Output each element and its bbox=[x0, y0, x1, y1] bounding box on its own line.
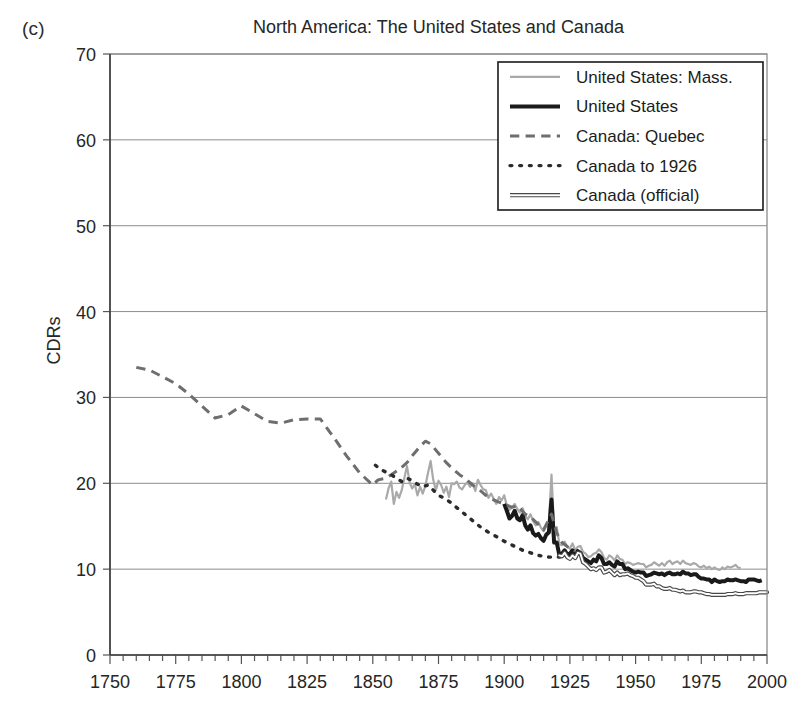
x-tick-label: 1825 bbox=[287, 672, 327, 692]
y-tick-label: 0 bbox=[86, 646, 96, 666]
legend-label-3: Canada to 1926 bbox=[576, 157, 697, 176]
x-ticks-group: 1750177518001825185018751900192519501975… bbox=[90, 655, 787, 692]
y-tick-label: 40 bbox=[76, 303, 96, 323]
chart-plot-area: 010203040506070 175017751800182518501875… bbox=[0, 0, 806, 717]
x-tick-label: 1850 bbox=[353, 672, 393, 692]
y-axis-title: CDRs bbox=[44, 281, 65, 401]
x-tick-label: 1975 bbox=[681, 672, 721, 692]
x-tick-label: 1950 bbox=[616, 672, 656, 692]
legend-label-4: Canada (official) bbox=[576, 186, 699, 205]
chart-legend: United States: Mass.United StatesCanada:… bbox=[498, 62, 763, 210]
series-line-1 bbox=[504, 500, 762, 582]
y-tick-label: 70 bbox=[76, 45, 96, 65]
x-tick-label: 1925 bbox=[550, 672, 590, 692]
chart-figure: (c) North America: The United States and… bbox=[0, 0, 806, 717]
series-line-2 bbox=[136, 367, 575, 551]
legend-label-2: Canada: Quebec bbox=[576, 127, 705, 146]
x-tick-label: 1875 bbox=[418, 672, 458, 692]
x-tick-label: 1750 bbox=[90, 672, 130, 692]
legend-label-1: United States bbox=[576, 97, 678, 116]
y-tick-label: 20 bbox=[76, 474, 96, 494]
x-tick-label: 1800 bbox=[221, 672, 261, 692]
y-tick-label: 60 bbox=[76, 131, 96, 151]
y-tick-label: 30 bbox=[76, 388, 96, 408]
chart-title: North America: The United States and Can… bbox=[110, 17, 767, 38]
y-ticks-group: 010203040506070 bbox=[76, 45, 110, 666]
x-tick-label: 2000 bbox=[747, 672, 787, 692]
panel-label: (c) bbox=[22, 18, 45, 40]
legend-label-0: United States: Mass. bbox=[576, 68, 733, 87]
x-tick-label: 1775 bbox=[156, 672, 196, 692]
x-tick-label: 1900 bbox=[484, 672, 524, 692]
y-tick-label: 50 bbox=[76, 217, 96, 237]
y-tick-label: 10 bbox=[76, 560, 96, 580]
data-series-group bbox=[136, 367, 767, 595]
